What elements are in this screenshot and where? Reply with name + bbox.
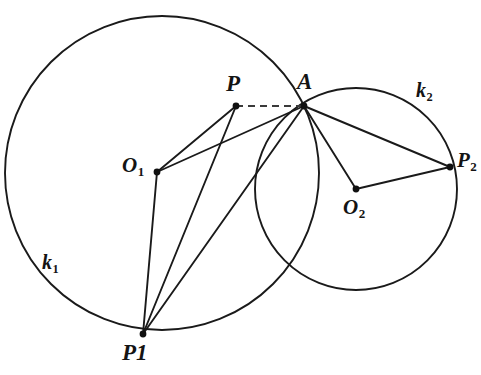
point-label-text-P: P	[226, 71, 240, 96]
point-label-sub-O2: 2	[359, 206, 366, 221]
circle-k1	[5, 16, 319, 330]
circles-group	[5, 16, 457, 330]
point-label-text-P2: P	[457, 148, 470, 172]
point-label-P: P	[226, 72, 240, 95]
point-label-P2: P2	[457, 150, 477, 173]
segment-A-P2	[304, 106, 450, 167]
geometry-canvas	[0, 0, 481, 375]
circle-label-sub-k1: 1	[53, 262, 59, 276]
circle-label-text-k1: k	[42, 251, 52, 273]
point-label-text-O2: O	[343, 195, 358, 219]
point-dot-A	[301, 103, 308, 110]
point-label-text-A: A	[297, 69, 312, 94]
point-dot-P1	[140, 331, 147, 338]
point-dot-O1	[154, 169, 161, 176]
segment-P-P1	[143, 106, 236, 334]
point-dot-O2	[353, 186, 360, 193]
point-label-text-O1: O	[122, 153, 137, 177]
circle-label-k1: k1	[42, 252, 59, 275]
point-label-O2: O2	[343, 197, 365, 220]
point-label-sub-O1: 1	[138, 164, 145, 179]
circle-label-text-k2: k	[416, 79, 426, 101]
point-label-A: A	[297, 70, 312, 93]
segment-O2-P2	[356, 167, 450, 189]
point-dot-P	[233, 103, 240, 110]
point-label-text-P1: P1	[122, 340, 148, 365]
circle-label-sub-k2: 2	[427, 90, 433, 104]
point-label-P1: P1	[122, 341, 148, 364]
segment-O1-A	[157, 106, 304, 172]
segment-O1-P1	[143, 172, 157, 334]
segment-O1-P	[157, 106, 236, 172]
point-dot-P2	[447, 164, 454, 171]
segment-A-P1	[143, 106, 304, 334]
circle-label-k2: k2	[416, 80, 433, 103]
point-label-O1: O1	[122, 155, 144, 178]
vertex-dots-group	[140, 103, 454, 338]
segment-A-O2	[304, 106, 356, 189]
point-label-sub-P2: 2	[470, 159, 477, 174]
geometry-figure: PAO1O2P1P2k1k2	[0, 0, 481, 375]
segments-group	[143, 106, 450, 334]
